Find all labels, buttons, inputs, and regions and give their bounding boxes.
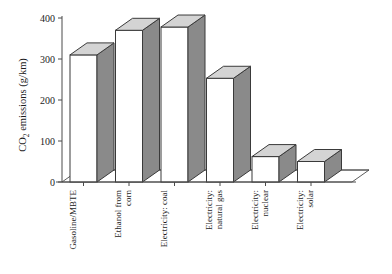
bar-side-face: [234, 66, 251, 182]
x-axis-label-3: Electricity: coal: [159, 190, 169, 248]
x-axis-label-line: corn: [123, 190, 133, 206]
bar-front-face: [252, 157, 279, 182]
y-axis: 0100200300400: [40, 13, 62, 188]
bars-group: [70, 15, 342, 182]
y-axis-title: CO2 emissions (g/km): [17, 58, 31, 152]
chart-canvas: 0100200300400CO2 emissions (g/km)Gasolin…: [0, 0, 392, 274]
co2-emissions-bar-chart: 0100200300400CO2 emissions (g/km)Gasolin…: [0, 0, 392, 274]
x-axis-label-6: Electricity:solar: [295, 190, 315, 230]
bar-front-face: [207, 78, 234, 182]
x-axis-label-line: nuclear: [260, 190, 270, 216]
y-tick-label: 200: [40, 95, 55, 106]
x-axis-label-4: Electricity:natural gas: [204, 190, 224, 230]
y-tick-label: 300: [40, 54, 55, 65]
x-axis-label-line: Electricity:: [295, 190, 305, 230]
x-axis-label-line: solar: [305, 190, 315, 208]
y-axis-title-text: CO2 emissions (g/km): [17, 58, 31, 152]
x-axis-label-line: natural gas: [214, 190, 224, 230]
x-axis-label-line: Electricity: coal: [159, 190, 169, 248]
bar-side-face: [97, 43, 114, 182]
bar-front-face: [161, 27, 188, 182]
bar-2[interactable]: [116, 18, 160, 182]
x-axis-label-2: Ethanol fromcorn: [113, 190, 133, 238]
x-axis-label-1: Gasoline/MBTE: [68, 190, 78, 250]
bar-front-face: [116, 30, 143, 182]
bar-side-face: [143, 18, 160, 182]
x-axis: [56, 182, 356, 186]
bar-front-face: [298, 162, 325, 183]
y-tick-label: 400: [40, 13, 55, 24]
y-tick-label: 100: [40, 136, 55, 147]
x-axis-label-line: Electricity:: [250, 190, 260, 230]
bar-front-face: [70, 55, 97, 182]
x-axis-label-line: Electricity:: [204, 190, 214, 230]
bar-4[interactable]: [207, 66, 251, 182]
x-axis-label-5: Electricity:nuclear: [250, 190, 270, 230]
bar-3[interactable]: [161, 15, 205, 182]
y-tick-label: 0: [50, 177, 55, 188]
bar-side-face: [188, 15, 205, 182]
bar-1[interactable]: [70, 43, 114, 182]
x-axis-label-line: Ethanol from: [113, 190, 123, 238]
x-axis-label-line: Gasoline/MBTE: [68, 190, 78, 250]
